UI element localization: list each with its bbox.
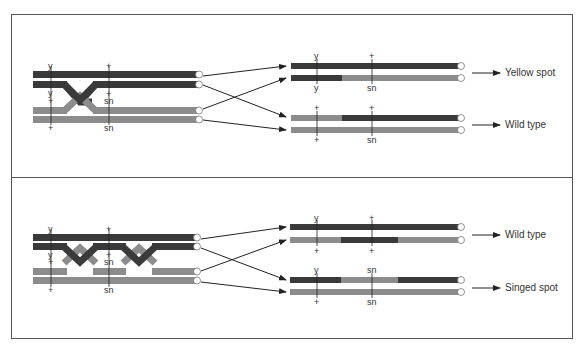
crossover-diagram: y + y + + sn + sn <box>0 0 584 352</box>
panel-single-crossover: y + y + + sn + sn <box>33 51 555 145</box>
label-y: y <box>314 51 319 61</box>
label-plus: + <box>48 285 53 295</box>
label-plus: + <box>48 257 53 267</box>
outcome-label: Wild type <box>505 229 547 240</box>
segregation-arrows <box>201 227 286 292</box>
label-plus: + <box>314 297 319 307</box>
label-plus: + <box>369 51 374 61</box>
outcome-label: Yellow spot <box>505 67 555 78</box>
label-plus: + <box>314 246 319 256</box>
label-sn: sn <box>367 83 377 93</box>
label-plus: + <box>369 103 374 113</box>
outcome-label: Singed spot <box>505 282 558 293</box>
label-plus: + <box>314 103 319 113</box>
label-sn: sn <box>104 123 114 133</box>
daughter-chromatids <box>291 59 465 136</box>
label-sn: sn <box>367 135 377 145</box>
label-plus: + <box>48 123 53 133</box>
label-sn: sn <box>104 96 114 106</box>
label-plus: + <box>106 61 111 71</box>
label-y: y <box>314 265 319 275</box>
outcome-label: Wild type <box>505 119 547 130</box>
parental-chromatids <box>33 229 201 287</box>
label-sn: sn <box>104 285 114 295</box>
daughter-chromatids <box>290 220 465 298</box>
label-y: y <box>314 83 319 93</box>
label-y: y <box>314 213 319 223</box>
label-sn: sn <box>104 257 114 267</box>
label-sn: sn <box>367 297 377 307</box>
label-plus: + <box>369 246 374 256</box>
label-y: y <box>48 224 53 234</box>
label-plus: + <box>48 96 53 106</box>
segregation-arrows <box>203 66 286 130</box>
label-plus: + <box>106 224 111 234</box>
panel-double-crossover: y + y + + sn + sn <box>33 213 558 307</box>
parental-chromatids <box>33 66 203 125</box>
label-plus: + <box>369 213 374 223</box>
label-sn: sn <box>367 265 377 275</box>
label-y: y <box>48 61 53 71</box>
label-plus: + <box>314 135 319 145</box>
